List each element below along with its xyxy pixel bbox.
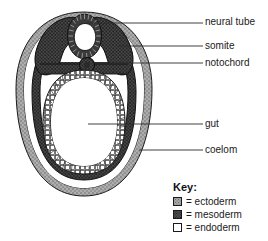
neural-tube <box>68 14 102 60</box>
embryo-cross-section-figure: a section through an embryo <box>0 0 268 241</box>
key-label-endoderm: = endoderm <box>186 222 240 233</box>
neural-canal <box>74 24 96 51</box>
label-gut: gut <box>205 119 219 129</box>
mesoderm-swatch-icon <box>173 210 182 219</box>
gut-lumen <box>51 78 117 166</box>
key-row-endoderm: = endoderm <box>173 221 265 234</box>
key-title: Key: <box>173 181 265 193</box>
key-legend: Key: = ectoderm = mesoderm = endoderm <box>173 181 265 234</box>
label-coelom: coelom <box>205 145 237 155</box>
key-row-ectoderm: = ectoderm <box>173 195 265 208</box>
label-neural-tube: neural tube <box>205 17 255 27</box>
endoderm-swatch-icon <box>173 223 182 232</box>
key-label-ectoderm: = ectoderm <box>186 196 236 207</box>
label-somite: somite <box>205 41 234 51</box>
key-label-mesoderm: = mesoderm <box>186 209 242 220</box>
key-row-mesoderm: = mesoderm <box>173 208 265 221</box>
ectoderm-swatch-icon <box>173 197 182 206</box>
label-notochord: notochord <box>205 58 249 68</box>
